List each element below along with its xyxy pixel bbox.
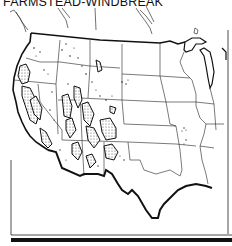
northern-border [31,33,185,44]
canada-outline [10,6,198,34]
windbreak-areas [18,60,118,168]
us-map [0,0,232,246]
thick-rule [11,238,232,242]
great-lakes [184,38,226,88]
